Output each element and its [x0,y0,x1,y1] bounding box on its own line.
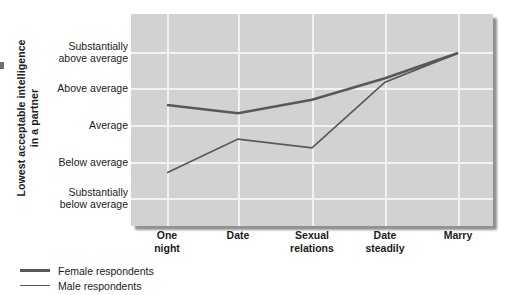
legend-label-male: Male respondents [58,280,141,292]
series-lines [131,14,493,226]
series-line-male [167,53,458,173]
legend-item-male[interactable]: Male respondents [20,278,154,293]
y-tick-label-0-line-1: Substantially [26,40,128,52]
y-tick-label-3: Below average [26,156,128,168]
y-tick-label-3-line-1: Below average [26,156,128,168]
plot-area [131,14,493,226]
chart-legend: Female respondentsMale respondents [20,263,154,293]
y-tick-label-4: Substantiallybelow average [26,186,128,211]
x-tick-label-4: Marry [413,229,503,242]
y-tick-label-4-line-2: below average [26,198,128,210]
legend-swatch-female [20,269,50,272]
x-axis-tick-labels: OnenightDateSexualrelationsDatesteadilyM… [131,229,493,263]
y-tick-label-1: Above average [26,82,128,94]
series-line-female [167,53,458,113]
plot-area-wrapper [131,14,493,226]
legend-label-female: Female respondents [58,265,154,277]
legend-swatch-male [20,285,50,287]
y-tick-label-2: Average [26,119,128,131]
y-tick-label-0: Substantiallyabove average [26,40,128,65]
legend-item-female[interactable]: Female respondents [20,263,154,278]
x-tick-label-4-line-1: Marry [413,229,503,242]
y-tick-label-4-line-1: Substantially [26,186,128,198]
chart-figure: Lowest acceptable intelligence in a part… [0,0,511,295]
y-tick-label-0-line-2: above average [26,52,128,64]
y-tick-label-1-line-1: Above average [26,82,128,94]
y-tick-label-2-line-1: Average [26,119,128,131]
x-tick-label-3-line-2: steadily [340,242,430,255]
y-axis-tick-labels: Substantiallyabove averageAbove averageA… [26,14,128,214]
x-tick-label-0-line-2: night [122,242,212,255]
corner-mark [0,62,4,69]
